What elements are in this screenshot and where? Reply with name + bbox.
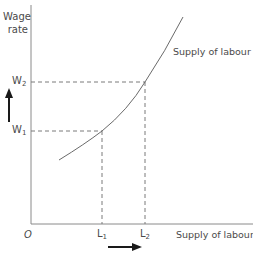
diagram-canvas (0, 0, 253, 255)
w2-label: W2 (12, 76, 26, 88)
x-axis-label: Supply of labour (176, 230, 253, 240)
l2-label: L2 (140, 229, 150, 241)
y-axis-label: Wage rate (3, 10, 28, 36)
w1-label: W1 (12, 125, 26, 137)
origin-label: O (24, 230, 32, 240)
y-axis-label-line1: Wage (3, 10, 28, 23)
wage-increase-arrow-icon (5, 88, 13, 98)
l1-label: L1 (97, 229, 107, 241)
labour-supply-diagram: Wage rate W2 W1 O L1 L2 Supply of labour… (0, 0, 253, 255)
y-axis-label-line2: rate (3, 23, 28, 36)
labour-increase-arrow-icon (132, 243, 142, 251)
supply-curve (59, 17, 183, 160)
curve-label: Supply of labour (173, 47, 251, 57)
